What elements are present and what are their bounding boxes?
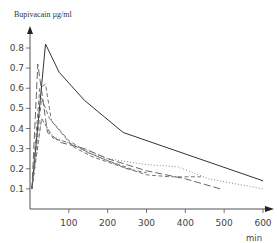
x-tick-label: 400 xyxy=(177,218,194,228)
y-tick-label: 0.7 xyxy=(10,63,24,73)
series-line-dash-b xyxy=(32,84,147,189)
line-chart: 0.10.20.30.40.50.60.70.8 100200300400500… xyxy=(0,0,277,243)
x-tick-label: 300 xyxy=(138,218,155,228)
x-ticks: 100200300400500600 xyxy=(60,209,272,228)
series-line-dash-a xyxy=(32,98,201,189)
y-tick-label: 0.2 xyxy=(10,164,24,174)
y-axis-arrow-icon xyxy=(27,26,33,34)
x-tick-label: 100 xyxy=(60,218,77,228)
y-tick-label: 0.8 xyxy=(10,43,25,53)
y-tick-label: 0.3 xyxy=(10,144,24,154)
x-axis-arrow-icon xyxy=(265,206,274,212)
y-ticks: 0.10.20.30.40.50.60.70.8 xyxy=(10,43,30,194)
x-tick-label: 600 xyxy=(254,218,271,228)
y-tick-label: 0.6 xyxy=(10,83,25,93)
x-axis-unit: min xyxy=(246,233,262,243)
x-tick-label: 500 xyxy=(216,218,233,228)
series-line-long-dash xyxy=(32,64,220,189)
series-line-dotted xyxy=(32,118,263,188)
series-line-solid xyxy=(32,44,263,189)
y-tick-label: 0.1 xyxy=(10,184,24,194)
y-tick-label: 0.5 xyxy=(10,103,24,113)
x-tick-label: 200 xyxy=(99,218,116,228)
axes xyxy=(27,26,274,212)
series-lines xyxy=(32,44,263,189)
y-tick-label: 0.4 xyxy=(10,124,25,134)
